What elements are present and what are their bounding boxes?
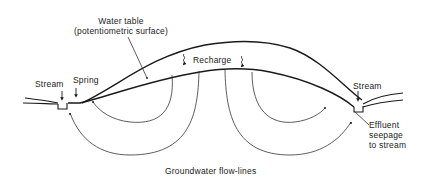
effluent-label-line3: to stream (369, 140, 406, 150)
water-table-label: Water table (potentiometric surface) (66, 16, 176, 36)
flowline-inner-left (93, 75, 172, 122)
recharge-label: Recharge (193, 55, 231, 65)
right-stream-channel (354, 106, 363, 112)
effluent-label: Effluent seepage to stream (369, 120, 406, 150)
recharge-arrow-left-icon (183, 54, 184, 64)
left-stream-channel (58, 103, 67, 109)
left-bank-upper (25, 98, 58, 103)
flowline-outer-right (225, 70, 351, 155)
effluent-label-line2: seepage (369, 130, 406, 140)
stream-right-label: Stream (353, 81, 382, 91)
spring-label: Spring (73, 75, 99, 85)
water-table-label-line1: Water table (66, 16, 176, 26)
ground-surface-line (82, 42, 362, 103)
groundwater-diagram: Water table (potentiometric surface) Rec… (0, 0, 435, 186)
left-bank-lower (23, 103, 58, 104)
flowline-inner-right (252, 72, 325, 122)
effluent-pointer (354, 111, 369, 125)
stream-left-label: Stream (35, 79, 64, 89)
water-table-label-line2: (potentiometric surface) (66, 26, 176, 36)
flowlines-caption: Groundwater flow-lines (165, 166, 256, 176)
recharge-arrow-right-icon (241, 56, 242, 66)
effluent-label-line1: Effluent (369, 120, 406, 130)
